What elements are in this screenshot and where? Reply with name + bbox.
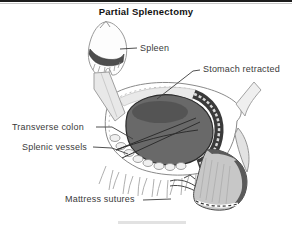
spleen-label: Spleen <box>140 43 169 53</box>
transverse-colon-label: Transverse colon <box>12 122 84 132</box>
stomach-retracted-label: Stomach retracted <box>203 64 280 74</box>
sutures-leader-line <box>143 199 171 200</box>
bottom-divider-fragment <box>118 221 186 224</box>
medical-diagram-page: Partial Splenectomy <box>0 0 292 227</box>
mattress-sutures-label: Mattress sutures <box>65 194 135 204</box>
splenectomy-illustration <box>0 0 292 227</box>
splenic-vessels-label: Splenic vessels <box>22 142 87 152</box>
upper-right-flap <box>236 82 261 116</box>
